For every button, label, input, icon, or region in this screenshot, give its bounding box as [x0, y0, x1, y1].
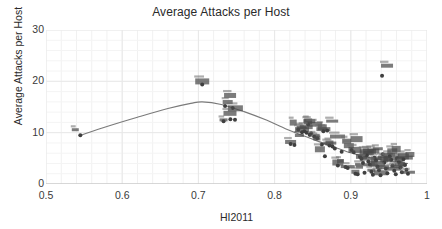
x-tick-label: 0.5: [26, 190, 66, 201]
x-tick-label: 0.8: [255, 190, 295, 201]
x-tick-label: 0.9: [331, 190, 371, 201]
x-tick-label: 1: [407, 190, 442, 201]
x-tick-label: 0.7: [178, 190, 218, 201]
x-axis-label: HI2011: [46, 211, 427, 223]
chart-figure: Average Attacks per Host Average Attacks…: [0, 0, 442, 229]
x-tick-label: 0.6: [102, 190, 142, 201]
x-axis-ticks: 0.50.60.70.80.91: [0, 0, 442, 229]
